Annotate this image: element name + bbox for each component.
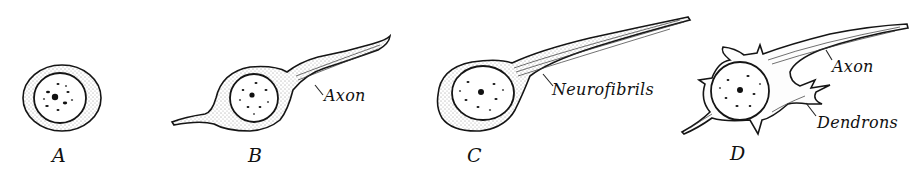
axon-b-leader <box>315 85 323 95</box>
neuron-development-diagram <box>0 0 922 177</box>
cell-b <box>172 36 390 131</box>
dendrons-leader <box>806 103 816 116</box>
figure-label-a: A <box>52 144 66 166</box>
cell-b-cytoplasm <box>172 36 390 131</box>
cell-b-nucleus <box>230 74 278 122</box>
axon-label-b: Axon <box>324 86 366 105</box>
cell-a-nucleus <box>34 73 86 123</box>
cell-a <box>23 65 101 131</box>
neurofibrils-label: Neurofibrils <box>552 80 654 99</box>
figure-label-c: C <box>467 144 482 166</box>
dendrons-label: Dendrons <box>817 113 898 132</box>
cell-c <box>438 17 691 131</box>
figure-label-b: B <box>248 144 262 166</box>
axon-label-d: Axon <box>832 57 874 76</box>
figure-label-d: D <box>730 142 745 164</box>
